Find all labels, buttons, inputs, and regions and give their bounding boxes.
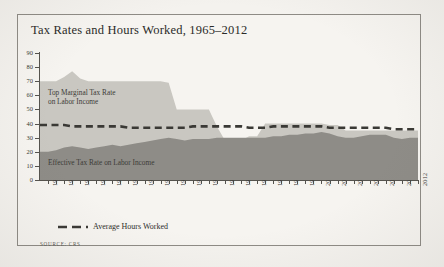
x-axis-tick: [321, 181, 322, 184]
x-axis-tick: [177, 181, 178, 184]
x-axis-tick: [193, 181, 194, 184]
x-axis-tick: [354, 181, 355, 184]
y-axis-tick-label: 50: [15, 105, 33, 112]
y-axis-tick-label: 80: [15, 63, 33, 70]
y-axis-tick-label: 40: [15, 120, 33, 127]
x-axis-tick: [370, 181, 371, 184]
y-axis-tick: [35, 138, 39, 139]
legend-item-label: Average Hours Worked: [93, 222, 168, 231]
y-axis-tick-label: 70: [15, 77, 33, 84]
y-axis-tick: [35, 152, 39, 153]
x-axis-tick: [80, 181, 81, 184]
x-axis-tick: [289, 181, 290, 184]
x-axis-tick: [225, 181, 226, 184]
x-axis-tick: [48, 181, 49, 184]
x-axis-tick: [64, 181, 65, 184]
x-axis-tick: [209, 181, 210, 184]
source-note: SOURCE: CRS: [40, 241, 81, 247]
series-label-top-marginal-line1: Top Marginal Tax Rate: [48, 88, 115, 97]
page-title: Tax Rates and Hours Worked, 1965–2012: [31, 23, 247, 38]
x-axis-tick: [112, 181, 113, 184]
y-axis-tick: [35, 166, 39, 167]
y-axis-tick: [35, 81, 39, 82]
y-axis-tick: [35, 109, 39, 110]
y-axis-tick: [35, 180, 39, 181]
x-axis-tick: [145, 181, 146, 184]
x-axis-tick: [161, 181, 162, 184]
y-axis-tick-label: 20: [15, 148, 33, 155]
x-axis-tick: [96, 181, 97, 184]
y-axis-tick-label: 90: [15, 49, 33, 56]
figure-page: Tax Rates and Hours Worked, 1965–2012 01…: [0, 0, 444, 267]
x-axis-tick: [418, 181, 419, 184]
x-axis-tick: [338, 181, 339, 184]
series-label-top-marginal-line2: on Labor Income: [48, 97, 115, 106]
y-axis-tick-label: 30: [15, 134, 33, 141]
y-axis-tick-label: 10: [15, 162, 33, 169]
x-axis-tick: [273, 181, 274, 184]
x-axis-tick: [128, 181, 129, 184]
x-axis-tick: [402, 181, 403, 184]
x-axis-tick: [386, 181, 387, 184]
y-axis-tick: [35, 53, 39, 54]
x-axis-tick: [241, 181, 242, 184]
y-axis-tick: [35, 95, 39, 96]
dashed-line-icon: [58, 224, 88, 230]
x-axis-tick-label: 2012: [421, 173, 428, 186]
y-axis-tick-label: 60: [15, 91, 33, 98]
series-label-effective: Effective Tax Rate on Labor Income: [48, 158, 154, 167]
y-axis-tick: [35, 67, 39, 68]
legend: Average Hours Worked: [58, 222, 168, 231]
y-axis-tick-label: 0: [15, 176, 33, 183]
series-label-top-marginal: Top Marginal Tax Rate on Labor Income: [48, 88, 115, 107]
x-axis-tick: [257, 181, 258, 184]
y-axis-tick: [35, 124, 39, 125]
x-axis-tick: [305, 181, 306, 184]
